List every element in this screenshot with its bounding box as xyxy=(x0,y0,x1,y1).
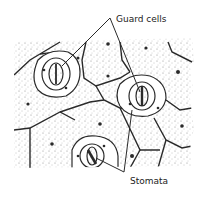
leaf-epidermis-diagram xyxy=(0,0,202,201)
stomata-label: Stomata xyxy=(130,176,168,186)
epidermis-tissue xyxy=(0,0,202,201)
guard-cells-label: Guard cells xyxy=(116,14,166,24)
